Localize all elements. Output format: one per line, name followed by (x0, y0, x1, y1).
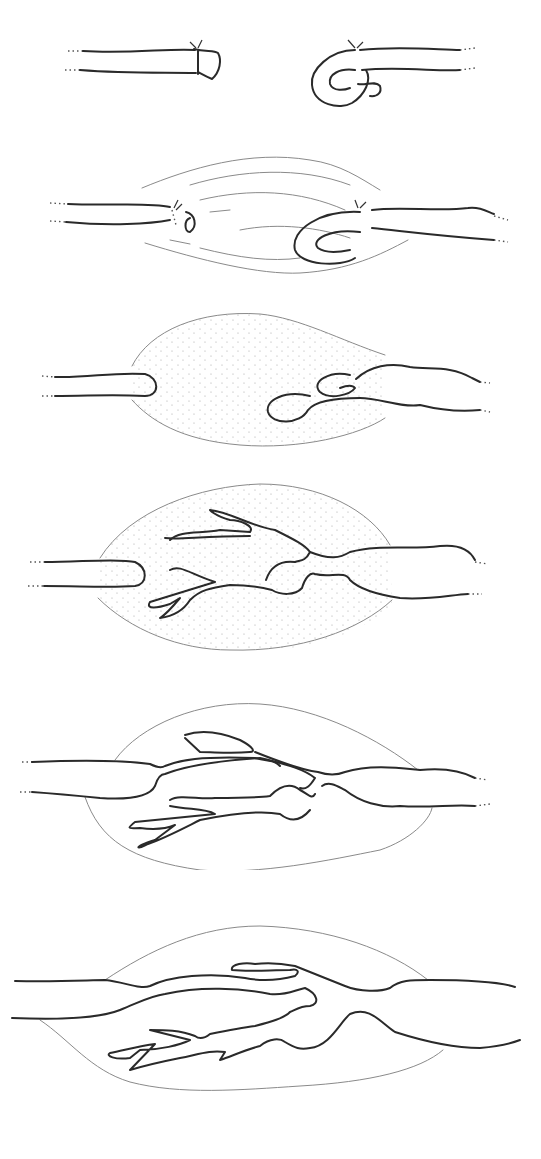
panel-6 (0, 910, 541, 1110)
panel-3 (0, 300, 541, 460)
panel-4 (0, 470, 541, 670)
panel-1 (0, 0, 541, 130)
panel-2 (0, 140, 541, 290)
panel-5 (0, 690, 541, 870)
